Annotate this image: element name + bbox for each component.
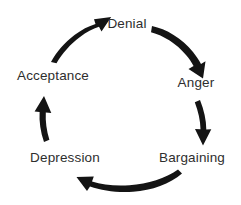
arrow-depression-to-acceptance xyxy=(35,96,52,142)
arrow-acceptance-to-denial xyxy=(51,17,111,63)
stage-label-depression: Depression xyxy=(30,150,100,166)
stage-label-denial: Denial xyxy=(107,16,146,32)
stage-label-anger: Anger xyxy=(178,75,215,91)
cycle-diagram: Denial Anger Bargaining Depression Accep… xyxy=(0,0,241,205)
arrow-anger-to-bargaining xyxy=(195,100,212,146)
stage-label-bargaining: Bargaining xyxy=(159,150,225,166)
arrow-bargaining-to-depression xyxy=(77,170,183,193)
arrow-denial-to-anger xyxy=(151,26,206,79)
stage-label-acceptance: Acceptance xyxy=(17,68,89,84)
